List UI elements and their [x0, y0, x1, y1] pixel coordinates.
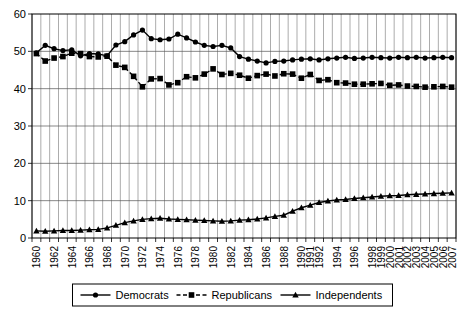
y-axis-tick-label: 60 [14, 8, 26, 20]
data-point-marker [361, 55, 366, 60]
data-point-marker [413, 84, 419, 90]
data-point-marker [369, 55, 374, 60]
legend-label-independents: Independents [316, 289, 383, 301]
data-point-marker [422, 55, 427, 60]
data-point-marker [104, 53, 110, 59]
data-point-marker [166, 82, 172, 88]
data-point-marker [254, 73, 260, 79]
data-point-marker [272, 73, 278, 79]
x-axis-tick-label: 1988 [279, 246, 290, 269]
data-point-marker [131, 32, 136, 37]
data-point-marker [352, 56, 357, 61]
x-axis-tick-label: 1986 [261, 246, 272, 269]
data-point-marker [219, 72, 225, 78]
data-point-marker [290, 57, 295, 62]
data-point-marker [387, 83, 393, 89]
data-point-marker [431, 84, 437, 90]
y-axis-tick-label: 50 [14, 45, 26, 57]
x-axis-tick-label: 1978 [190, 246, 201, 269]
data-point-marker [202, 43, 207, 48]
data-point-marker [184, 35, 189, 40]
data-point-marker [157, 37, 162, 42]
x-axis-tick-label: 1964 [67, 246, 78, 269]
x-axis-tick-label: 1992 [314, 246, 325, 269]
data-point-marker [93, 292, 98, 297]
x-axis-tick-label: 1980 [208, 246, 219, 269]
data-point-marker [210, 44, 215, 49]
data-point-marker [308, 56, 313, 61]
data-point-marker [166, 36, 171, 41]
data-point-marker [449, 84, 455, 90]
data-point-marker [281, 58, 286, 63]
data-point-marker [193, 75, 199, 81]
data-point-marker [51, 46, 56, 51]
y-axis-tick-label: 10 [14, 195, 26, 207]
data-point-marker [325, 77, 331, 83]
data-point-marker [405, 83, 411, 89]
data-point-marker [307, 72, 313, 78]
data-point-marker [343, 80, 349, 86]
data-point-marker [299, 57, 304, 62]
x-axis-tick-label: 1982 [226, 246, 237, 269]
line-chart: 0102030405060196019621964196619681970197… [0, 0, 465, 314]
data-point-marker [140, 27, 145, 32]
x-axis-tick-label: 1960 [31, 246, 42, 269]
data-point-marker [414, 55, 419, 60]
data-point-marker [69, 50, 75, 56]
data-point-marker [60, 48, 65, 53]
data-point-marker [78, 51, 84, 57]
data-point-marker [316, 57, 321, 62]
data-point-marker [140, 84, 146, 90]
data-point-marker [237, 72, 243, 78]
x-axis-tick-label: 1974 [155, 246, 166, 269]
data-point-marker [405, 55, 410, 60]
data-point-marker [210, 66, 216, 72]
x-axis-tick-label: 1962 [49, 246, 60, 269]
data-point-marker [157, 76, 163, 82]
x-axis-tick-label: 1976 [173, 246, 184, 269]
data-point-marker [431, 55, 436, 60]
data-point-marker [175, 80, 181, 86]
chart-container: 0102030405060196019621964196619681970197… [0, 0, 465, 314]
data-point-marker [255, 58, 260, 63]
data-point-marker [387, 55, 392, 60]
y-axis-tick-label: 30 [14, 120, 26, 132]
data-point-marker [325, 56, 330, 61]
data-point-marker [334, 55, 339, 60]
data-point-marker [60, 54, 66, 60]
data-point-marker [316, 78, 322, 84]
data-point-marker [334, 80, 340, 86]
y-axis-tick-label: 20 [14, 157, 26, 169]
data-point-marker [422, 84, 428, 90]
data-point-marker [396, 82, 402, 88]
data-point-marker [201, 71, 207, 77]
x-axis: 1960196219641966196819701972197419761978… [31, 238, 457, 268]
data-point-marker [369, 81, 375, 87]
legend-label-republicans: Republicans [212, 289, 273, 301]
data-point-marker [272, 59, 277, 64]
y-axis-tick-label: 0 [20, 232, 26, 244]
data-point-marker [131, 74, 137, 80]
data-point-marker [378, 81, 384, 87]
x-axis-tick-label: 1968 [102, 246, 113, 269]
x-axis-tick-label: 1970 [120, 246, 131, 269]
data-point-marker [175, 32, 180, 37]
data-point-marker [396, 55, 401, 60]
data-point-marker [440, 55, 445, 60]
data-point-marker [149, 36, 154, 41]
data-point-marker [449, 55, 454, 60]
data-point-marker [281, 71, 287, 77]
legend-label-democrats: Democrats [116, 289, 170, 301]
x-axis-tick-label: 2007 [447, 246, 458, 269]
data-point-marker [42, 58, 48, 64]
data-point-marker [43, 43, 48, 48]
x-axis-tick-label: 1984 [243, 246, 254, 269]
data-point-marker [263, 71, 269, 77]
data-point-marker [87, 54, 93, 60]
data-point-marker [228, 71, 234, 77]
data-point-marker [440, 84, 446, 90]
data-point-marker [189, 292, 195, 298]
data-point-marker [378, 55, 383, 60]
data-point-marker [290, 71, 296, 77]
data-point-marker [263, 60, 268, 65]
